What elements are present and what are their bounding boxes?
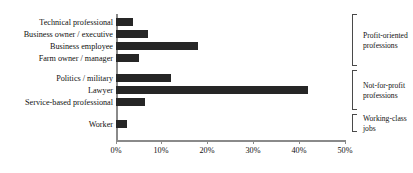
category-label: Business owner / executive (0, 30, 116, 39)
bar (116, 30, 148, 38)
x-axis-tick-label: 50% (325, 146, 365, 156)
group-label: Working-class jobs (363, 114, 413, 133)
group-label-line: Working-class (363, 114, 413, 124)
group-label-line: jobs (363, 123, 413, 133)
category-label: Worker (0, 120, 116, 129)
x-axis-tick (299, 140, 300, 144)
bar (116, 86, 308, 94)
x-axis-tick (253, 140, 254, 144)
x-axis-tick-label: 30% (233, 146, 273, 156)
group-label-line: Not-for-profit (363, 81, 413, 91)
category-label: Lawyer (0, 86, 116, 95)
bar (116, 98, 145, 106)
x-axis-tick (161, 140, 162, 144)
x-axis-line (116, 140, 345, 142)
x-axis-tick-label: 40% (279, 146, 319, 156)
x-axis-tick-label: 20% (187, 146, 227, 156)
group-label: Not-for-profit professions (363, 81, 413, 100)
group-label-line: Profit-oriented (363, 31, 413, 41)
x-axis-tick-label: 0% (96, 146, 136, 156)
group-label: Profit-oriented professions (363, 31, 413, 50)
bracket (352, 114, 357, 132)
plot-area (116, 14, 345, 140)
bar-chart: Technical professional Business owner / … (0, 0, 413, 173)
category-label: Service-based professional (0, 98, 116, 107)
x-axis-tick (116, 140, 117, 144)
group-label-line: professions (363, 90, 413, 100)
bracket (352, 70, 357, 110)
bracket (352, 14, 357, 66)
bar (116, 42, 198, 50)
bar (116, 120, 127, 128)
x-axis-tick (345, 140, 346, 144)
category-label: Farm owner / manager (0, 54, 116, 63)
x-axis-tick (207, 140, 208, 144)
category-label: Technical professional (0, 18, 116, 27)
bar (116, 54, 139, 62)
group-label-line: professions (363, 40, 413, 50)
x-axis-tick-label: 10% (141, 146, 181, 156)
bar (116, 74, 171, 82)
category-label: Business employee (0, 42, 116, 51)
bar (116, 18, 133, 26)
category-label: Politics / military (0, 74, 116, 83)
